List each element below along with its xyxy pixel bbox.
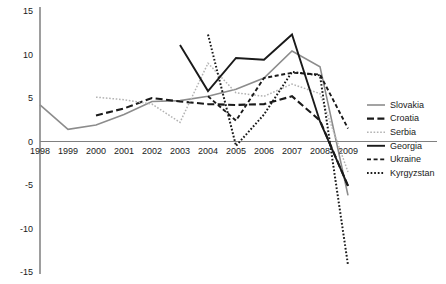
x-tick-label: 1998 — [30, 146, 50, 156]
y-tick-label: 10 — [23, 50, 33, 60]
x-tick-label: 2002 — [142, 146, 162, 156]
series-line-georgia — [180, 34, 348, 185]
y-axis-group: 151050-5-10-15 — [20, 6, 40, 277]
legend-label-croatia: Croatia — [390, 113, 419, 123]
chart-canvas: 151050-5-10-15 1998199920002001200220032… — [0, 0, 446, 284]
y-tick-labels: 151050-5-10-15 — [20, 6, 33, 277]
x-tick-label: 2009 — [338, 146, 358, 156]
x-tick-label: 2003 — [170, 146, 190, 156]
legend-label-slovakia: Slovakia — [390, 100, 424, 110]
x-tick-label: 2004 — [198, 146, 218, 156]
x-tick-labels: 1998199920002001200220032004200520062007… — [30, 146, 358, 156]
y-tick-label: -15 — [20, 267, 33, 277]
legend-label-ukraine: Ukraine — [390, 154, 421, 164]
line-chart: 151050-5-10-15 1998199920002001200220032… — [0, 0, 446, 284]
y-tick-label: 15 — [23, 6, 33, 16]
legend-label-kyrgyzstan: Kyrgyzstan — [390, 168, 435, 178]
y-tick-label: -10 — [20, 224, 33, 234]
chart-legend: SlovakiaCroatiaSerbiaGeorgiaUkraineKyrgy… — [367, 100, 435, 178]
series-line-serbia — [96, 63, 348, 172]
y-tick-label: -5 — [25, 180, 33, 190]
x-tick-label: 2000 — [86, 146, 106, 156]
x-tick-label: 2005 — [226, 146, 246, 156]
x-tick-label: 1999 — [58, 146, 78, 156]
x-tick-label: 2006 — [254, 146, 274, 156]
x-tick-label: 2001 — [114, 146, 134, 156]
legend-label-georgia: Georgia — [390, 141, 422, 151]
x-tick-label: 2007 — [282, 146, 302, 156]
y-tick-label: 5 — [28, 93, 33, 103]
legend-label-serbia: Serbia — [390, 127, 416, 137]
x-tick-label: 2008 — [310, 146, 330, 156]
x-axis-group: 1998199920002001200220032004200520062007… — [30, 142, 437, 156]
